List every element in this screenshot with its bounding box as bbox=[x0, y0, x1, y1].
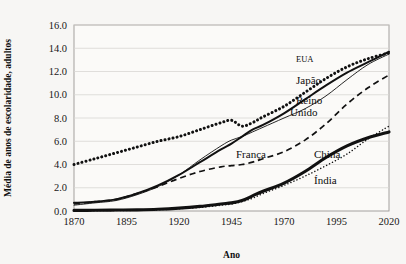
x-axis-title: Ano bbox=[223, 250, 240, 260]
y-tick-label: 8.0 bbox=[54, 113, 67, 124]
x-tick-label: 1895 bbox=[116, 216, 137, 227]
series-label-unido: Unido bbox=[290, 106, 318, 118]
series-label-franca: França bbox=[236, 148, 266, 160]
x-tick-label: 2020 bbox=[379, 216, 400, 227]
y-tick-label: 10.0 bbox=[49, 89, 67, 100]
y-tick-label: 0.0 bbox=[54, 206, 67, 217]
series-label-eua: EUA bbox=[296, 54, 314, 64]
y-tick-label: 4.0 bbox=[54, 159, 67, 170]
y-tick-label: 16.0 bbox=[49, 20, 67, 31]
x-tick-label: 1920 bbox=[169, 216, 190, 227]
x-tick-label: 1870 bbox=[64, 216, 85, 227]
series-label-japao: Japão bbox=[296, 74, 322, 86]
y-tick-label: 6.0 bbox=[54, 136, 67, 147]
series-label-china: China bbox=[314, 148, 340, 160]
x-tick-label: 1945 bbox=[221, 216, 242, 227]
y-axis-title: Média de anos de escolaridade, adultos bbox=[3, 39, 13, 197]
chart-canvas: 0.02.04.06.08.010.012.014.016.0187018951… bbox=[0, 0, 406, 264]
y-tick-label: 2.0 bbox=[54, 182, 67, 193]
x-tick-label: 1995 bbox=[326, 216, 347, 227]
y-tick-label: 14.0 bbox=[49, 43, 67, 54]
x-tick-label: 1970 bbox=[274, 216, 295, 227]
series-label-india: Índia bbox=[314, 174, 337, 186]
series-label-reino: Reino bbox=[296, 94, 323, 106]
education-years-chart: 0.02.04.06.08.010.012.014.016.0187018951… bbox=[0, 0, 406, 264]
y-tick-label: 12.0 bbox=[49, 66, 67, 77]
